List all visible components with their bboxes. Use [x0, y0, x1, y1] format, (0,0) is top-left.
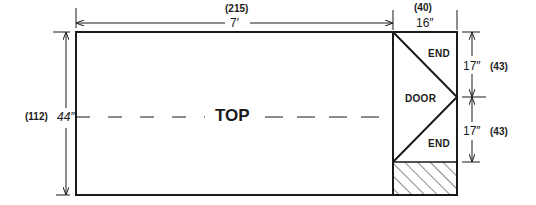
width-side-imperial: 16″ — [416, 16, 434, 30]
height-lower-metric: (43) — [490, 126, 508, 137]
width-main-metric: (215) — [225, 3, 248, 14]
lower-end-label: END — [428, 138, 450, 149]
layout-diagram — [0, 0, 536, 205]
hatched-waste-area — [393, 162, 457, 195]
upper-end-label: END — [428, 48, 450, 59]
height-lower-imperial: 17″ — [463, 124, 481, 138]
door-label: DOOR — [405, 93, 436, 104]
height-total-metric: (112) — [25, 111, 48, 122]
height-upper-imperial: 17″ — [463, 59, 481, 73]
width-side-metric: (40) — [414, 2, 432, 13]
height-total-imperial: 44″ — [57, 110, 75, 124]
width-main-imperial: 7′ — [230, 16, 239, 30]
height-upper-metric: (43) — [490, 61, 508, 72]
top-panel-label: TOP — [215, 106, 250, 126]
